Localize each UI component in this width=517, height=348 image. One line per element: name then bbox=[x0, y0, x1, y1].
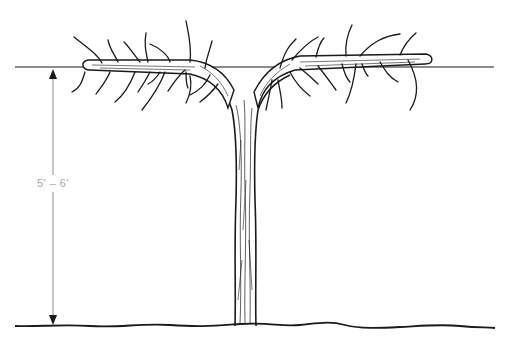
ground-line bbox=[15, 323, 495, 328]
arrow-head-up-icon bbox=[49, 69, 57, 79]
vine-illustration bbox=[0, 0, 517, 348]
dimension-arrow bbox=[49, 69, 57, 325]
height-dimension-label: 5′ – 6′ bbox=[31, 175, 75, 191]
arrow-head-down-icon bbox=[49, 315, 57, 325]
vine-trunk bbox=[200, 74, 290, 326]
left-cordon bbox=[83, 60, 234, 108]
trellis-diagram: 5′ – 6′ bbox=[0, 0, 517, 348]
